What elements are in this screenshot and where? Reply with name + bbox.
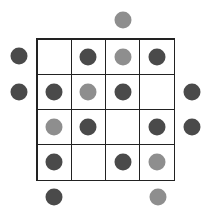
clue-left-2-dark-circle-icon [11,84,28,101]
dark-circle-icon [46,83,63,100]
dark-circle-icon [114,154,131,171]
puzzle-board [0,0,209,214]
grid-cell-r2-c3[interactable] [105,74,140,110]
grid-cell-r1-c2[interactable] [71,39,106,75]
grid-cell-r4-c1[interactable] [37,144,72,180]
light-circle-icon [46,119,63,136]
clue-bottom-1-dark-circle-icon [46,189,63,206]
clue-top-3-light-circle-icon [115,12,132,29]
grid-cell-r2-c2[interactable] [71,74,106,110]
clue-right-3-dark-circle-icon [184,119,201,136]
dark-circle-icon [80,48,97,65]
clue-left-1-dark-circle-icon [11,48,28,65]
clue-bottom-4-light-circle-icon [150,189,167,206]
grid-cell-r4-c4[interactable] [139,144,174,180]
light-circle-icon [114,48,131,65]
grid-cell-r2-c4[interactable] [139,74,174,110]
grid-cell-r1-c4[interactable] [139,39,174,75]
grid-cell-r4-c3[interactable] [105,144,140,180]
grid-cell-r4-c2[interactable] [71,144,106,180]
grid-cell-r1-c3[interactable] [105,39,140,75]
grid-cell-r3-c4[interactable] [139,109,174,145]
dark-circle-icon [46,154,63,171]
grid-cell-r3-c2[interactable] [71,109,106,145]
dark-circle-icon [148,48,165,65]
grid-cell-r3-c3[interactable] [105,109,140,145]
light-circle-icon [148,154,165,171]
grid-cell-r1-c1[interactable] [37,39,72,75]
light-circle-icon [80,83,97,100]
puzzle-grid [36,38,175,181]
dark-circle-icon [148,119,165,136]
dark-circle-icon [80,119,97,136]
clue-right-2-dark-circle-icon [184,84,201,101]
dark-circle-icon [114,83,131,100]
grid-cell-r2-c1[interactable] [37,74,72,110]
grid-cell-r3-c1[interactable] [37,109,72,145]
